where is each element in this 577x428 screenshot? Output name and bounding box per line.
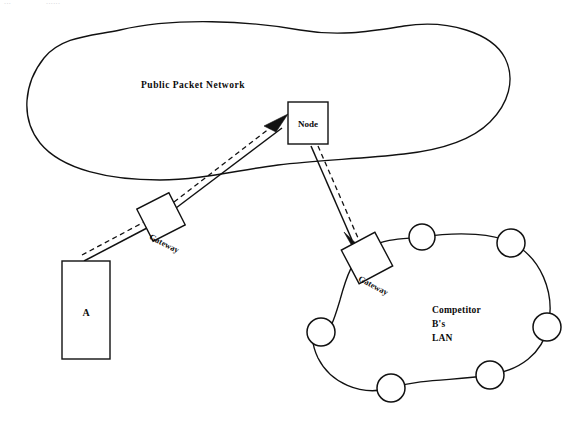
- arrowhead-to-node: [264, 114, 288, 132]
- lan-station-5: [377, 374, 405, 402]
- link-gateway-to-node-dashed: [174, 121, 279, 202]
- cloud-label: Public Packet Network: [141, 80, 245, 90]
- packet-node-label: Node: [298, 119, 318, 129]
- lan-label-line-1: Competitor: [432, 305, 482, 315]
- lan-label-line-3: LAN: [432, 333, 453, 343]
- gateway-b-label: Gateway: [357, 273, 391, 297]
- diagram-svg: Public Packet Network Competitor B's LAN…: [0, 0, 577, 428]
- terminal-a-label: A: [82, 307, 90, 318]
- link-gateway-to-node-solid: [176, 128, 282, 208]
- lan-station-3: [533, 313, 561, 341]
- lan-station-2: [497, 229, 525, 257]
- public-packet-network-cloud: [27, 22, 510, 180]
- lan-label-line-2: B's: [432, 319, 445, 329]
- gateway-a-shape: [137, 193, 185, 241]
- network-diagram-canvas: ··· ······ Public Packet Network Competi…: [0, 0, 577, 428]
- lan-station-6: [307, 318, 335, 346]
- link-a-to-gateway-dashed: [82, 221, 146, 255]
- link-a-to-gateway-solid: [84, 228, 147, 261]
- lan-station-4: [476, 361, 504, 389]
- lan-station-1: [409, 224, 435, 250]
